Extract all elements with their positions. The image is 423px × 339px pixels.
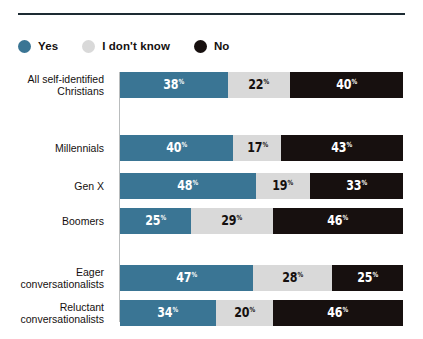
- chart-row: Millennials40%17%43%: [0, 135, 423, 161]
- bar-value-label: 48%: [177, 179, 198, 193]
- bar-value-number: 38: [163, 76, 178, 92]
- percent-sign: %: [264, 78, 270, 86]
- bar-value-label: 38%: [163, 78, 184, 92]
- stacked-bar-chart: YesI don't knowNo All self-identified Ch…: [0, 0, 423, 339]
- bar-segment[interactable]: 25%: [120, 208, 191, 234]
- bar-value-label: 28%: [282, 271, 303, 285]
- percent-sign: %: [373, 271, 379, 279]
- bar-segment[interactable]: 40%: [120, 135, 233, 161]
- bar-value-label: 40%: [166, 141, 187, 155]
- circle-icon: [18, 40, 31, 53]
- bar-segment[interactable]: 43%: [281, 135, 403, 161]
- bar-value-label: 40%: [336, 78, 357, 92]
- bar-value-number: 22: [248, 76, 263, 92]
- chart-row: All self-identified Christians38%22%40%: [0, 72, 423, 98]
- bar-value-number: 20: [234, 304, 249, 320]
- chart-row: Eager conversationalists47%28%25%: [0, 265, 423, 291]
- percent-sign: %: [351, 78, 357, 86]
- bar-value-number: 17: [247, 139, 262, 155]
- percent-sign: %: [237, 214, 243, 222]
- bar-value-label: 33%: [346, 179, 367, 193]
- bar-segment[interactable]: 20%: [216, 300, 273, 326]
- bar-value-number: 33: [346, 177, 361, 193]
- percent-sign: %: [173, 306, 179, 314]
- percent-sign: %: [347, 141, 353, 149]
- legend-item-yes[interactable]: Yes: [18, 40, 58, 53]
- percent-sign: %: [361, 179, 367, 187]
- legend-label: No: [214, 40, 230, 52]
- percent-sign: %: [182, 141, 188, 149]
- chart-row: Gen X48%19%33%: [0, 173, 423, 199]
- bar-value-number: 25: [357, 269, 372, 285]
- bar-value-label: 25%: [357, 271, 378, 285]
- chart-row: Boomers25%29%46%: [0, 208, 423, 234]
- bar-value-label: 20%: [234, 306, 255, 320]
- bar-segment[interactable]: 34%: [120, 300, 216, 326]
- bar-value-label: 25%: [145, 214, 166, 228]
- bar-value-number: 46: [327, 212, 342, 228]
- percent-sign: %: [262, 141, 268, 149]
- bar-value-number: 28: [282, 269, 297, 285]
- category-label: All self-identified Christians: [0, 73, 112, 97]
- bar-value-number: 40: [166, 139, 181, 155]
- bar-segment[interactable]: 46%: [273, 208, 403, 234]
- stacked-bar: 47%28%25%: [120, 265, 403, 291]
- bar-value-number: 47: [176, 269, 191, 285]
- bar-value-number: 19: [272, 177, 287, 193]
- legend-item-i-don-t-know[interactable]: I don't know: [82, 40, 170, 53]
- percent-sign: %: [288, 179, 294, 187]
- legend-label: I don't know: [102, 40, 170, 52]
- bar-segment[interactable]: 38%: [120, 72, 228, 98]
- bar-value-number: 46: [327, 304, 342, 320]
- stacked-bar: 34%20%46%: [120, 300, 403, 326]
- bar-value-label: 19%: [272, 179, 293, 193]
- bar-value-label: 29%: [221, 214, 242, 228]
- legend-label: Yes: [38, 40, 58, 52]
- percent-sign: %: [343, 214, 349, 222]
- plot-area: All self-identified Christians38%22%40%M…: [0, 68, 423, 330]
- bar-value-label: 46%: [327, 214, 348, 228]
- category-label: Eager conversationalists: [0, 266, 112, 290]
- bar-segment[interactable]: 28%: [253, 265, 332, 291]
- bar-value-number: 34: [158, 304, 173, 320]
- bar-segment[interactable]: 25%: [332, 265, 403, 291]
- stacked-bar: 25%29%46%: [120, 208, 403, 234]
- bar-value-label: 34%: [158, 306, 179, 320]
- bar-segment[interactable]: 33%: [310, 173, 403, 199]
- category-label: Boomers: [0, 215, 112, 227]
- header-rule: [18, 13, 405, 15]
- chart-legend: YesI don't knowNo: [18, 35, 254, 57]
- bar-value-label: 43%: [332, 141, 353, 155]
- bar-value-label: 47%: [176, 271, 197, 285]
- stacked-bar: 48%19%33%: [120, 173, 403, 199]
- chart-row: Reluctant conversationalists34%20%46%: [0, 300, 423, 326]
- percent-sign: %: [298, 271, 304, 279]
- stacked-bar: 38%22%40%: [120, 72, 403, 98]
- bar-value-number: 43: [332, 139, 347, 155]
- bar-value-number: 25: [145, 212, 160, 228]
- percent-sign: %: [343, 306, 349, 314]
- bar-segment[interactable]: 48%: [120, 173, 256, 199]
- bar-segment[interactable]: 17%: [233, 135, 281, 161]
- bar-segment[interactable]: 19%: [256, 173, 310, 199]
- category-label: Gen X: [0, 180, 112, 192]
- circle-icon: [194, 40, 207, 53]
- bar-segment[interactable]: 47%: [120, 265, 253, 291]
- percent-sign: %: [191, 271, 197, 279]
- percent-sign: %: [160, 214, 166, 222]
- legend-item-no[interactable]: No: [194, 40, 230, 53]
- circle-icon: [82, 40, 95, 53]
- percent-sign: %: [193, 179, 199, 187]
- bar-segment[interactable]: 40%: [290, 72, 403, 98]
- bar-segment[interactable]: 46%: [273, 300, 403, 326]
- bar-value-label: 46%: [327, 306, 348, 320]
- category-label: Millennials: [0, 142, 112, 154]
- percent-sign: %: [179, 78, 185, 86]
- bar-value-number: 48: [177, 177, 192, 193]
- bar-value-label: 22%: [248, 78, 269, 92]
- bar-value-number: 40: [336, 76, 351, 92]
- category-label: Reluctant conversationalists: [0, 301, 112, 325]
- bar-segment[interactable]: 29%: [191, 208, 273, 234]
- bar-segment[interactable]: 22%: [228, 72, 290, 98]
- bar-value-label: 17%: [247, 141, 268, 155]
